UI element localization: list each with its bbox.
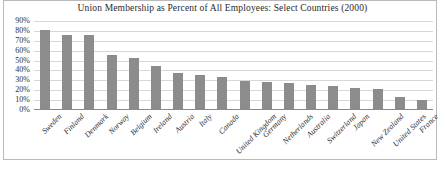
bar[interactable] <box>62 35 72 110</box>
bar[interactable] <box>151 66 161 111</box>
y-axis: 90%80%70%60%50%40%30%20%10%0% <box>0 21 32 110</box>
plot-area <box>34 21 433 110</box>
bar[interactable] <box>328 86 338 110</box>
bar[interactable] <box>350 88 360 110</box>
y-axis-tick-label: 30% <box>15 76 30 84</box>
bar[interactable] <box>306 85 316 110</box>
bar[interactable] <box>195 75 205 110</box>
bar-slot <box>278 21 300 110</box>
bar-slot <box>322 21 344 110</box>
bar[interactable] <box>262 82 272 110</box>
bar[interactable] <box>373 89 383 110</box>
bar[interactable] <box>107 55 117 110</box>
x-axis-tick-label: Norway <box>106 112 130 136</box>
x-axis-tick-label: Sweden <box>40 112 64 136</box>
bar-slot <box>256 21 278 110</box>
chart-figure: Union Membership as Percent of All Emplo… <box>0 0 445 175</box>
chart-title: Union Membership as Percent of All Emplo… <box>0 3 445 13</box>
bar-slot <box>300 21 322 110</box>
y-axis-tick-label: 50% <box>15 57 30 65</box>
bar-slot <box>145 21 167 110</box>
bar-slot <box>123 21 145 110</box>
bar-slot <box>56 21 78 110</box>
y-axis-tick-label: 70% <box>15 37 30 45</box>
y-axis-tick-label: 0% <box>19 106 30 114</box>
bar-series <box>34 21 433 110</box>
bar-slot <box>211 21 233 110</box>
y-axis-tick-label: 90% <box>15 17 30 25</box>
bar-slot <box>167 21 189 110</box>
y-axis-tick-label: 80% <box>15 27 30 35</box>
y-axis-tick-label: 60% <box>15 47 30 55</box>
bar-slot <box>34 21 56 110</box>
x-axis-tick-label: Canada <box>217 112 241 136</box>
bar[interactable] <box>84 35 94 110</box>
bar[interactable] <box>284 83 294 110</box>
bar[interactable] <box>129 58 139 110</box>
x-axis: SwedenFinlandDenmarkNorwayBelgiumIreland… <box>34 110 433 172</box>
bar-slot <box>411 21 433 110</box>
bar[interactable] <box>217 77 227 110</box>
y-axis-tick-label: 10% <box>15 96 30 104</box>
y-axis-tick-label: 20% <box>15 86 30 94</box>
x-axis-tick-label: Ireland <box>151 112 174 135</box>
y-axis-tick-label: 40% <box>15 66 30 74</box>
bar-slot <box>189 21 211 110</box>
bar-slot <box>367 21 389 110</box>
x-axis-tick-label: Denmark <box>83 112 110 139</box>
bar-slot <box>344 21 366 110</box>
bar-slot <box>389 21 411 110</box>
x-axis-tick-label: Italy <box>197 112 214 129</box>
bar-slot <box>234 21 256 110</box>
bar[interactable] <box>40 30 50 110</box>
x-axis-tick-label: Belgium <box>128 112 153 137</box>
bar[interactable] <box>173 73 183 110</box>
bar-slot <box>101 21 123 110</box>
bar[interactable] <box>240 81 250 110</box>
x-axis-tick-label: Austria <box>173 112 196 135</box>
bar-slot <box>78 21 100 110</box>
